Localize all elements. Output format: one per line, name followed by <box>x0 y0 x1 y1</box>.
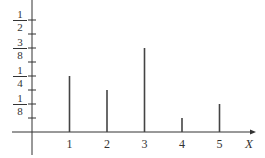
fraction-numerator: 1 <box>13 9 27 21</box>
x-axis-arrow-icon <box>250 130 256 135</box>
fraction-denominator: 8 <box>13 49 27 60</box>
y-tick-label: 18 <box>13 93 27 116</box>
chart-canvas <box>0 0 265 158</box>
fraction-denominator: 2 <box>13 21 27 32</box>
x-tick-label: 5 <box>214 137 226 152</box>
fraction-denominator: 8 <box>13 105 27 116</box>
fraction-numerator: 1 <box>13 65 27 77</box>
x-axis-label: X <box>245 136 253 152</box>
fraction-numerator: 3 <box>13 37 27 49</box>
fraction-numerator: 1 <box>13 93 27 105</box>
y-tick-label: 14 <box>13 65 27 88</box>
x-tick-label: 2 <box>101 137 113 152</box>
bars <box>70 48 220 132</box>
y-tick-label: 12 <box>13 9 27 32</box>
fraction-denominator: 4 <box>13 77 27 88</box>
x-tick-label: 1 <box>64 137 76 152</box>
x-tick-label: 3 <box>139 137 151 152</box>
x-tick-label: 4 <box>176 137 188 152</box>
y-tick-label: 38 <box>13 37 27 60</box>
